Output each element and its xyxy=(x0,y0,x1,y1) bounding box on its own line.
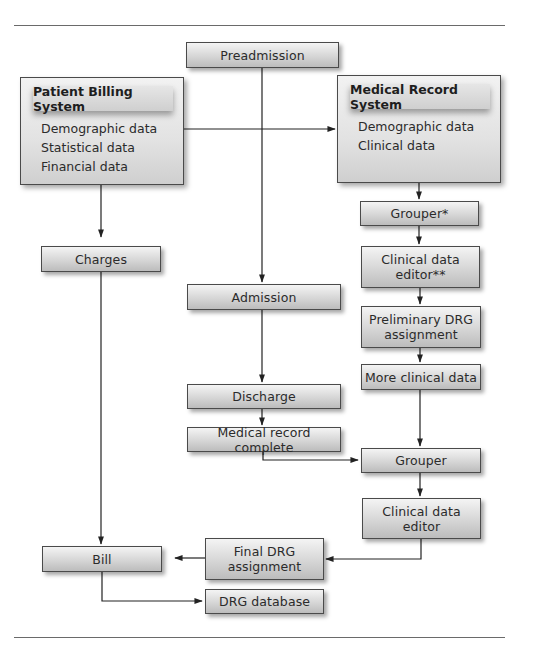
clinical-data-editor-node: Clinical data editor xyxy=(362,498,481,539)
edge-editor-final-drg xyxy=(326,538,421,559)
edge-bill-drg-database xyxy=(102,571,202,601)
charges-node: Charges xyxy=(41,246,161,272)
patient-billing-system-title: Patient Billing System xyxy=(33,86,173,111)
drg-database-node: DRG database xyxy=(205,589,324,614)
medical-record-system-box: Medical Record System Demographic data C… xyxy=(337,75,501,183)
grouper-star-node: Grouper* xyxy=(360,201,479,226)
grouper-node: Grouper xyxy=(361,448,481,473)
billing-item: Demographic data xyxy=(41,119,157,138)
final-drg-assignment-node: Final DRG assignment xyxy=(205,538,324,580)
admission-node: Admission xyxy=(187,284,341,310)
more-clinical-data-node: More clinical data xyxy=(361,364,481,390)
medical-record-complete-node: Medical record complete xyxy=(187,427,341,452)
patient-billing-system-box: Patient Billing System Demographic data … xyxy=(20,77,184,185)
billing-item: Financial data xyxy=(41,157,157,176)
medical-record-item: Demographic data xyxy=(358,117,474,136)
bill-node: Bill xyxy=(42,546,162,572)
clinical-data-editor-2star-node: Clinical data editor** xyxy=(361,246,480,288)
billing-item: Statistical data xyxy=(41,138,157,157)
medical-record-item: Clinical data xyxy=(358,136,474,155)
medical-record-system-title: Medical Record System xyxy=(350,84,490,109)
preadmission-node: Preadmission xyxy=(186,42,339,68)
preliminary-drg-node: Preliminary DRG assignment xyxy=(361,306,481,348)
discharge-node: Discharge xyxy=(187,384,341,409)
